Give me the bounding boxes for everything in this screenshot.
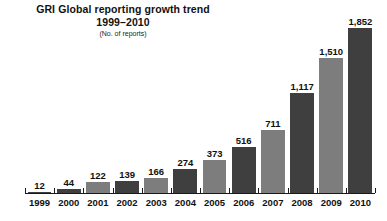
axis-end-cap — [375, 188, 376, 193]
bar-group: 516 — [229, 10, 258, 193]
x-axis-tick-label: 2003 — [142, 196, 171, 210]
bar-value-label: 1,117 — [288, 81, 317, 92]
x-axis-tick-label: 2001 — [83, 196, 112, 210]
bar-value-label: 274 — [171, 157, 200, 168]
bar[interactable] — [115, 181, 139, 193]
bar-group: 1,510 — [317, 10, 346, 193]
axis-tick — [113, 188, 114, 193]
bar-group: 44 — [54, 10, 83, 193]
axis-tick — [317, 188, 318, 193]
axis-end-cap — [25, 188, 26, 193]
bar-value-label: 373 — [200, 148, 229, 159]
x-axis-tick-label: 2000 — [54, 196, 83, 210]
x-axis-tick-label: 1999 — [25, 196, 54, 210]
axis-tick — [288, 188, 289, 193]
bar[interactable] — [232, 147, 256, 193]
x-axis-tick-label: 2007 — [258, 196, 287, 210]
bar-value-label: 122 — [83, 170, 112, 181]
x-axis-tick-label: 2010 — [346, 196, 375, 210]
bar-group: 166 — [142, 10, 171, 193]
bar-group: 12 — [25, 10, 54, 193]
bar[interactable] — [319, 58, 343, 193]
bar-group: 373 — [200, 10, 229, 193]
bar-value-label: 711 — [258, 118, 287, 129]
axis-tick — [258, 188, 259, 193]
bar[interactable] — [203, 160, 227, 193]
bar-chart: GRI Global reporting growth trend 1999–2… — [0, 0, 387, 221]
bar-value-label: 516 — [229, 135, 258, 146]
bar-value-label: 44 — [54, 177, 83, 188]
axis-tick — [171, 188, 172, 193]
bar-group: 139 — [113, 10, 142, 193]
bar[interactable] — [173, 169, 197, 193]
bar-group: 122 — [83, 10, 112, 193]
x-axis-labels: 1999200020012002200320042005200620072008… — [25, 196, 375, 212]
x-axis-tick-label: 2002 — [113, 196, 142, 210]
axis-tick — [200, 188, 201, 193]
x-axis-tick-label: 2006 — [229, 196, 258, 210]
axis-tick — [229, 188, 230, 193]
axis-tick — [142, 188, 143, 193]
bar-value-label: 166 — [142, 166, 171, 177]
axis-tick — [346, 188, 347, 193]
bar-value-label: 1,510 — [317, 46, 346, 57]
x-axis-tick-label: 2005 — [200, 196, 229, 210]
axis-tick — [83, 188, 84, 193]
x-axis-tick-label: 2008 — [288, 196, 317, 210]
bar-group: 1,117 — [288, 10, 317, 193]
bar[interactable] — [86, 182, 110, 193]
bar-value-label: 1,852 — [346, 16, 375, 27]
plot-area: 12441221391662743735167111,1171,5101,852 — [25, 10, 375, 193]
bar-value-label: 139 — [113, 169, 142, 180]
axis-tick — [54, 188, 55, 193]
bar-group: 711 — [258, 10, 287, 193]
bar[interactable] — [290, 93, 314, 193]
bar-group: 1,852 — [346, 10, 375, 193]
bar[interactable] — [144, 178, 168, 193]
x-axis-tick-label: 2009 — [317, 196, 346, 210]
x-axis-line — [25, 193, 375, 194]
x-axis-tick-label: 2004 — [171, 196, 200, 210]
bar-value-label: 12 — [25, 180, 54, 191]
bar-group: 274 — [171, 10, 200, 193]
bar[interactable] — [348, 28, 372, 193]
bar[interactable] — [261, 130, 285, 193]
